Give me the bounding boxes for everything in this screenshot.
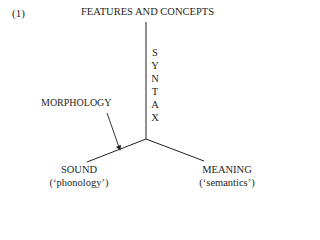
syntax-letter: A: [150, 98, 160, 111]
syntax-letter: N: [150, 72, 160, 85]
meaning-label: MEANING (‘semantics’): [192, 165, 262, 188]
sound-label: SOUND (‘phonology’): [40, 165, 118, 188]
syntax-letter: T: [150, 85, 160, 98]
syntax-vertical-label: S Y N T A X: [150, 46, 160, 124]
sound-axis-line: [87, 139, 146, 162]
sound-title: SOUND: [40, 165, 118, 176]
syntax-letter: S: [150, 46, 160, 59]
morphology-label: MORPHOLOGY: [41, 98, 112, 108]
meaning-axis-line: [146, 139, 204, 161]
morphology-arrow: [107, 113, 120, 150]
syntax-letter: X: [150, 111, 160, 124]
meaning-title: MEANING: [192, 165, 262, 176]
syntax-letter: Y: [150, 59, 160, 72]
sound-subtitle: (‘phonology’): [40, 178, 118, 189]
meaning-subtitle: (‘semantics’): [192, 178, 262, 189]
